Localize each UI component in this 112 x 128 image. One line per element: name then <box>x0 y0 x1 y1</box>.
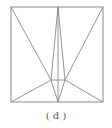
segment-TL-PL <box>11 7 51 80</box>
segment-PR-BM <box>58 80 65 102</box>
segment-PL-BM <box>51 80 58 102</box>
segment-PL-BL <box>11 80 51 102</box>
segment-TM-PR <box>58 7 65 80</box>
segment-TM-PL <box>51 7 58 80</box>
diagram-segments <box>11 7 103 102</box>
geometry-diagram <box>0 0 112 110</box>
figure-caption: ( d ) <box>0 110 112 121</box>
segment-TR-PR <box>65 7 103 80</box>
segment-PR-BR <box>65 80 103 102</box>
